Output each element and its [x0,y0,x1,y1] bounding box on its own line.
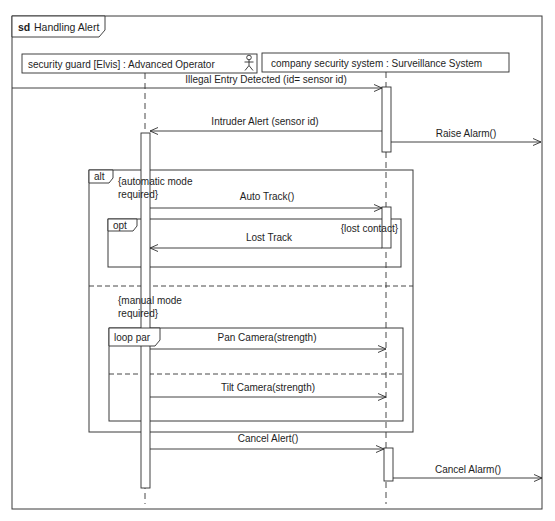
message-illegal-entry-detected: Illegal Entry Detected (id= sensor id) [12,74,382,88]
diagram-kind-label: sd [18,21,30,33]
message-cancel-alarm: Cancel Alarm() [393,464,542,478]
message-auto-track: Auto Track() [150,191,382,208]
message-label: Tilt Camera(strength) [221,382,315,393]
message-label: Intruder Alert (sensor id) [211,116,318,127]
message-intruder-alert: Intruder Alert (sensor id) [150,116,382,131]
alt-operator-label: alt [94,171,105,182]
message-pan-camera: Pan Camera(strength) [150,332,386,349]
diagram-title: Handling Alert [34,21,99,33]
message-label: Auto Track() [240,191,294,202]
alt-guard-1-line-1: {automatic mode [118,176,193,187]
message-label: Cancel Alarm() [435,464,501,475]
loop-par-operator-label: loop par [114,332,151,343]
alt-guard-1-line-2: required} [118,189,159,200]
opt-operator-label: opt [113,220,127,231]
alt-guard-2-line-1: {manual mode [118,295,182,306]
opt-guard: {lost contact} [341,223,399,234]
sequence-diagram: sd Handling Alert security guard [Elvis]… [0,0,555,521]
message-cancel-alert: Cancel Alert() [150,433,384,449]
message-label: Illegal Entry Detected (id= sensor id) [185,74,346,85]
lifeline-head-surveillance-system: company security system : Surveillance S… [262,53,509,72]
alt-guard-2-line-2: required} [118,308,159,319]
message-label: Raise Alarm() [436,128,497,139]
message-tilt-camera: Tilt Camera(strength) [150,382,386,397]
activation-surveillance-1 [382,87,391,152]
message-label: Pan Camera(strength) [218,332,317,343]
message-raise-alarm: Raise Alarm() [391,128,541,142]
lifeline-label: security guard [Elvis] : Advanced Operat… [28,59,215,70]
message-label: Cancel Alert() [238,433,299,444]
lifeline-head-security-guard: security guard [Elvis] : Advanced Operat… [22,54,257,73]
message-label: Lost Track [246,232,293,243]
lifeline-label: company security system : Surveillance S… [271,58,482,69]
activation-surveillance-3 [384,448,393,481]
message-lost-track: Lost Track [150,232,382,248]
